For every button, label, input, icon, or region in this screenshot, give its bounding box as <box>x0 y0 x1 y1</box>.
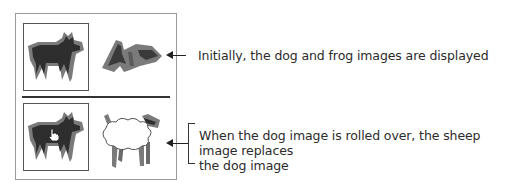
arrowhead-rollover-icon <box>166 139 173 147</box>
caption-rollover-line2: the dog image <box>199 158 513 173</box>
caption-rollover-line1: When the dog image is rolled over, the s… <box>199 128 513 158</box>
sheep-image <box>98 112 164 170</box>
dog-image-initial[interactable] <box>26 30 86 86</box>
hand-pointer-cursor-icon <box>48 128 60 142</box>
caption-rollover: When the dog image is rolled over, the s… <box>199 128 513 173</box>
caption-initial: Initially, the dog and frog images are d… <box>198 48 489 63</box>
caption-bracket <box>188 123 195 164</box>
state-divider <box>22 96 170 98</box>
frog-image <box>100 38 164 74</box>
arrowhead-initial-icon <box>166 51 173 59</box>
